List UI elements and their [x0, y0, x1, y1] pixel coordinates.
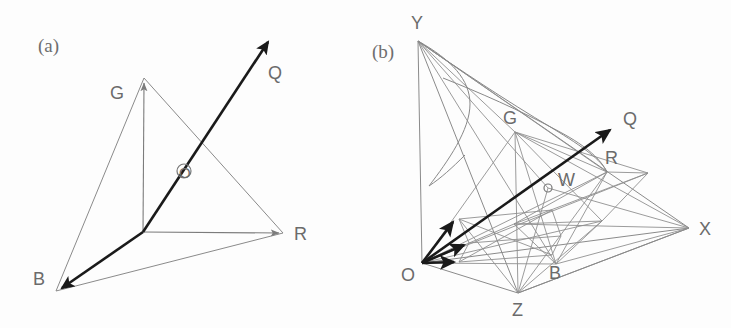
- panel-b-label-b: B: [549, 263, 561, 283]
- panel-b-axis-z: [422, 263, 518, 293]
- panel-b-spectral-locus-left: [418, 41, 470, 186]
- panel-b-spectral-locus-rim: [443, 78, 607, 172]
- panel-b-vector-q: [422, 130, 610, 263]
- panel-b-axis-y: [418, 41, 422, 263]
- panel-b-tag: (b): [372, 41, 394, 63]
- panel-b-label-q: Q: [623, 109, 637, 129]
- panel-b-diagram: (b): [0, 0, 731, 328]
- panel-b-spectral-locus-base: [429, 155, 465, 186]
- panel-b-primary-arrow-3: [422, 262, 454, 263]
- panel-b-label-w: W: [558, 170, 575, 190]
- panel-b-label-z: Z: [512, 300, 523, 320]
- panel-b-label-o: O: [401, 265, 415, 285]
- panel-b-label-x: X: [699, 219, 711, 239]
- panel-b-label-y: Y: [411, 13, 423, 33]
- panel-b-label-r: R: [605, 148, 618, 168]
- figure-container: (a) R G B Q O (b): [0, 0, 731, 328]
- panel-b-label-g: G: [503, 108, 517, 128]
